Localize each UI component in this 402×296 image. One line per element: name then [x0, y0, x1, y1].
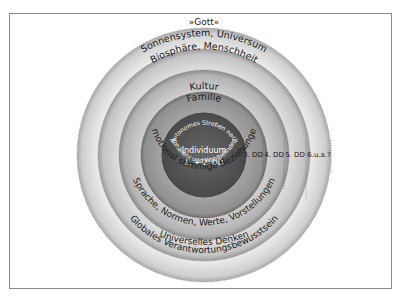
label-dd-6: 6.u.a.? [307, 151, 331, 159]
label-individuum: Individuum [182, 146, 227, 155]
label-dd-4: 4. DD [264, 151, 284, 159]
label-gott: »Gott« [189, 17, 220, 27]
label-dd-3: 3. DD [243, 151, 263, 159]
concentric-circles-diagram: »Gott« Sonnensystem, Universum Biosphäre… [0, 0, 402, 296]
label-dd-5: 5. DD [285, 151, 305, 159]
